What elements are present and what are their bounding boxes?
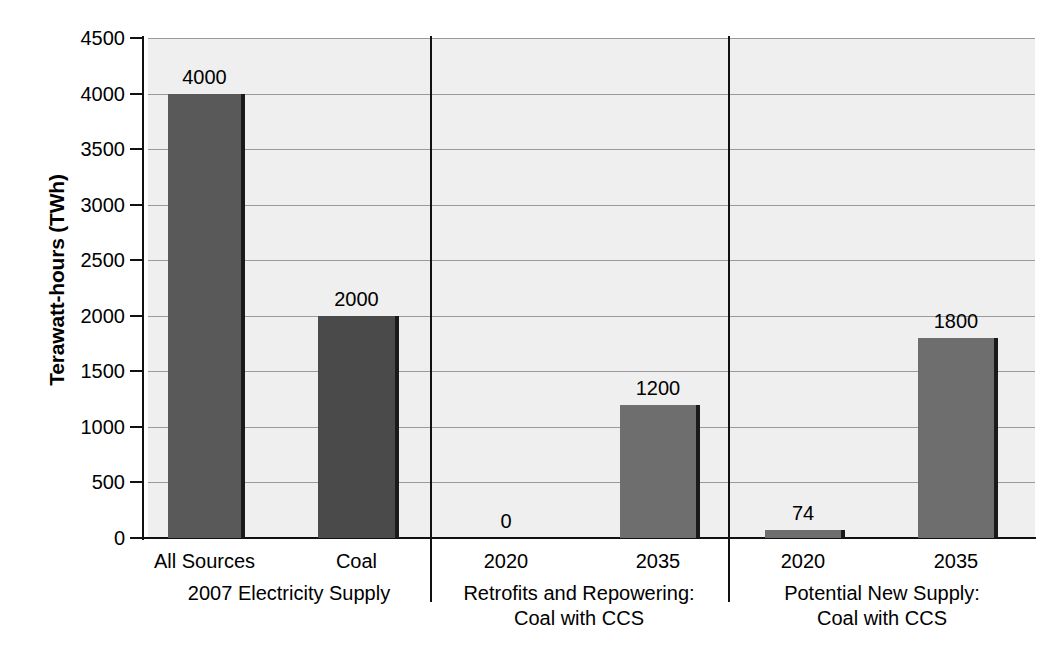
y-axis-tick [130, 370, 144, 372]
bar [765, 530, 841, 538]
bar [318, 316, 395, 538]
y-axis-tick [130, 37, 144, 39]
group-label: Potential New Supply:Coal with CCS [728, 581, 1036, 631]
y-axis-tick-label: 1000 [15, 417, 125, 437]
bar-value-label: 4000 [138, 67, 271, 87]
bar-value-label: 74 [735, 503, 871, 523]
category-label: 2035 [858, 549, 1054, 573]
plot-area [148, 38, 1035, 538]
y-axis-tick [130, 148, 144, 150]
y-axis-tick-label: 1500 [15, 361, 125, 381]
x-axis-line [142, 537, 1036, 539]
y-axis-tick [130, 315, 144, 317]
y-axis-title: Terawatt-hours (TWh) [45, 45, 69, 515]
bar-value-label: 2000 [288, 289, 425, 309]
group-separator [430, 36, 432, 602]
bar-edge-shadow [241, 94, 245, 538]
bar-edge-shadow [395, 316, 399, 538]
y-axis-tick [130, 93, 144, 95]
gridline [148, 205, 1035, 206]
group-label: 2007 Electricity Supply [148, 581, 430, 606]
bar-chart: Terawatt-hours (TWh) 0500100015002000250… [0, 0, 1059, 669]
group-label-line1: Retrofits and Repowering: [430, 581, 728, 606]
y-axis-tick [130, 537, 144, 539]
bar-edge-shadow [841, 530, 845, 538]
y-axis-tick-label: 2500 [15, 250, 125, 270]
gridline [148, 38, 1035, 39]
y-axis-tick-label: 0 [15, 528, 125, 548]
group-label-line2: Coal with CCS [728, 606, 1036, 631]
group-label-line2: Coal with CCS [430, 606, 728, 631]
y-axis-tick [130, 481, 144, 483]
y-axis-tick [130, 204, 144, 206]
bar-edge-shadow [696, 405, 700, 538]
bar [918, 338, 994, 538]
y-axis-tick-label: 2000 [15, 306, 125, 326]
bar-edge-shadow [994, 338, 998, 538]
gridline [148, 149, 1035, 150]
y-axis-tick-label: 3000 [15, 195, 125, 215]
gridline [148, 371, 1035, 372]
group-label-line1: Potential New Supply: [728, 581, 1036, 606]
bar [620, 405, 696, 538]
y-axis-tick [130, 259, 144, 261]
group-label-line1: 2007 Electricity Supply [148, 581, 430, 606]
y-axis-tick-label: 3500 [15, 139, 125, 159]
gridline [148, 94, 1035, 95]
gridline [148, 427, 1035, 428]
bar-value-label: 0 [438, 511, 574, 531]
bar [168, 94, 241, 538]
bar-value-label: 1800 [888, 311, 1024, 331]
bar-value-label: 1200 [590, 378, 726, 398]
y-axis-line [142, 36, 144, 540]
y-axis-tick-label: 4000 [15, 84, 125, 104]
group-label: Retrofits and Repowering:Coal with CCS [430, 581, 728, 631]
y-axis-tick-label: 500 [15, 472, 125, 492]
y-axis-tick [130, 426, 144, 428]
y-axis-tick-label: 4500 [15, 28, 125, 48]
gridline [148, 260, 1035, 261]
group-separator [728, 36, 730, 602]
gridline [148, 482, 1035, 483]
